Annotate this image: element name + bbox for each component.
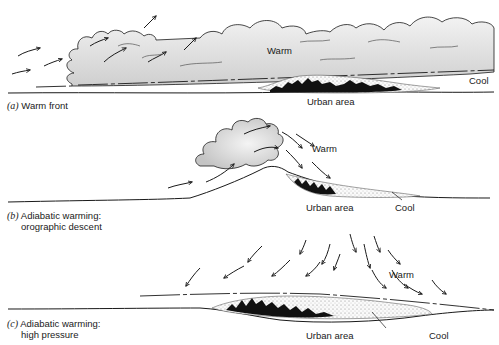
caption-c-line2: high pressure — [7, 329, 101, 340]
caption-b-line2: orographic descent — [7, 221, 102, 232]
caption-b-line1: Adiabatic warming: — [21, 210, 101, 221]
caption-b-letter: (b) — [7, 210, 19, 221]
caption-c-letter: (c) — [7, 318, 18, 329]
diagram-canvas — [0, 0, 499, 345]
label-warm-c: Warm — [389, 269, 414, 280]
label-urban-area-c: Urban area — [306, 330, 354, 341]
label-warm-a: Warm — [267, 45, 292, 56]
label-cool-b: Cool — [395, 202, 415, 213]
caption-a-letter: (a) — [7, 100, 19, 111]
panel-a-warm-front — [8, 16, 494, 93]
panel-c-high-pressure — [8, 234, 494, 328]
label-warm-b: Warm — [312, 143, 337, 154]
caption-a-text: Warm front — [21, 100, 68, 111]
panel-b-orographic-descent — [8, 118, 490, 202]
label-cool-c: Cool — [429, 330, 449, 341]
label-urban-area-a: Urban area — [307, 96, 355, 107]
caption-c-line1: Adiabatic warming: — [20, 318, 100, 329]
caption-a: (a) Warm front — [7, 100, 68, 111]
label-urban-area-b: Urban area — [306, 202, 354, 213]
caption-b: (b) Adiabatic warming: orographic descen… — [7, 210, 102, 232]
caption-c: (c) Adiabatic warming: high pressure — [7, 318, 101, 340]
label-cool-a: Cool — [469, 75, 489, 86]
